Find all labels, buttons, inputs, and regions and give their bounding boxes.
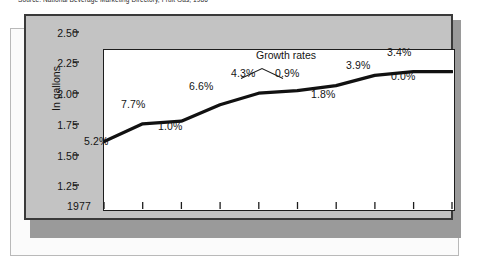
growth-label-1980: 6.6% — [189, 80, 213, 92]
growth-label-1977: 5.2% — [84, 135, 108, 147]
growth-label-1985: 3.4% — [387, 46, 411, 58]
growth-label-1984: 3.9% — [346, 59, 370, 71]
growth-label-1983: 1.8% — [311, 88, 335, 100]
chart-panel: In gallons 2.50 2.25 2.00 1.75 1.50 1.25… — [24, 14, 453, 220]
y-tick-label: 1.25 — [44, 180, 78, 192]
growth-label-1986: 0.0% — [391, 70, 415, 82]
y-tick-label: 1.50 — [44, 150, 78, 162]
y-tick-label: 2.50 — [44, 27, 78, 39]
data-series-line — [104, 72, 452, 142]
growth-label-1978: 7.7% — [121, 98, 145, 110]
source-caption: Source: National Beverage Marketing Dire… — [18, 0, 208, 3]
growth-label-1982: 0.9% — [275, 67, 299, 79]
x-tick-marks — [104, 202, 452, 209]
y-tick-label: 2.00 — [44, 88, 78, 100]
x-tick-label: 1977 — [59, 200, 99, 212]
growth-label-1979: 1.0% — [158, 120, 182, 132]
y-tick-label: 2.25 — [44, 57, 78, 69]
growth-rates-annotation: Growth rates — [256, 49, 316, 61]
y-tick-label: 1.75 — [44, 119, 78, 131]
growth-label-1981: 4.3% — [231, 67, 255, 79]
